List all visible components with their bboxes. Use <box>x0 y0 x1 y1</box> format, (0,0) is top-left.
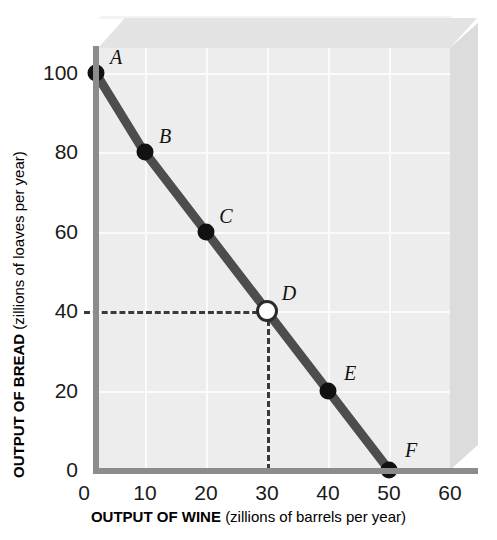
x-axis-title-rest: (zillions of barrels per year) <box>225 508 406 525</box>
ppf-curve-segment <box>324 388 393 474</box>
dashed-guide-horizontal <box>84 311 267 314</box>
x-tick-label: 20 <box>194 481 217 505</box>
x-tick-label: 40 <box>316 481 339 505</box>
data-point-label-d: D <box>282 282 296 305</box>
x-axis-title: OUTPUT OF WINE (zillions of barrels per … <box>0 508 497 525</box>
gridline-vertical <box>145 48 147 470</box>
data-point-label-e: E <box>344 361 356 384</box>
x-tick-label: 50 <box>377 481 400 505</box>
gridline-horizontal <box>98 232 450 234</box>
gridline-horizontal <box>98 391 450 393</box>
y-axis-title-bold: OUTPUT OF BREAD <box>10 334 27 478</box>
plot-panel: ABCDEF <box>98 48 450 470</box>
gridline-horizontal <box>98 73 450 75</box>
x-tick-label: 60 <box>438 481 461 505</box>
data-point-label-b: B <box>159 125 171 148</box>
data-point-b[interactable] <box>137 144 154 161</box>
data-point-label-a: A <box>110 46 122 69</box>
gridline-vertical <box>206 48 208 470</box>
data-point-label-f: F <box>405 439 417 462</box>
y-axis-title: OUTPUT OF BREAD (zillions of loaves per … <box>10 151 27 478</box>
dashed-guide-vertical <box>267 311 270 470</box>
x-tick-label: 30 <box>255 481 278 505</box>
data-point-e[interactable] <box>320 382 337 399</box>
y-tick-label: 100 <box>0 61 88 85</box>
ppf-chart-figure: ABCDEF 020406080100 0102030405060 OUTPUT… <box>0 0 497 540</box>
gridline-vertical <box>328 48 330 470</box>
data-point-d[interactable] <box>256 300 278 322</box>
y-axis-line <box>93 46 99 474</box>
x-tick-label: 10 <box>133 481 156 505</box>
ppf-curve-segment <box>263 308 332 394</box>
x-axis-title-bold: OUTPUT OF WINE <box>91 508 221 525</box>
x-axis-line <box>93 468 478 474</box>
ppf-curve-segment <box>92 71 149 156</box>
data-point-label-c: C <box>219 204 232 227</box>
ppf-curve-segment <box>141 150 210 236</box>
data-point-c[interactable] <box>198 223 215 240</box>
box-right-face <box>450 23 478 470</box>
gridline-vertical <box>389 48 391 470</box>
y-axis-title-rest: (zillions of loaves per year) <box>10 151 27 329</box>
x-tick-label: 0 <box>78 481 90 505</box>
box-top-face <box>98 18 477 48</box>
